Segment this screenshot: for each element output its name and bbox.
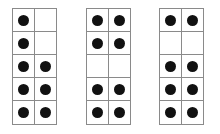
frame-cell [109, 55, 131, 78]
frame-cell [160, 101, 182, 124]
dot-icon [114, 84, 125, 95]
dot-icon [18, 107, 29, 118]
dot-icon [114, 38, 125, 49]
frame-cell [182, 78, 204, 101]
frame-cell [109, 101, 131, 124]
ten-frame-2 [86, 8, 131, 125]
frame-cell [182, 32, 204, 55]
dot-icon [18, 15, 29, 26]
frame-cell [109, 32, 131, 55]
dot-icon [40, 107, 51, 118]
frame-cell [109, 9, 131, 32]
frame-cell [35, 55, 57, 78]
frame-cell [160, 55, 182, 78]
frame-cell [13, 55, 35, 78]
dot-icon [18, 38, 29, 49]
dot-icon [92, 15, 103, 26]
frame-cell [35, 78, 57, 101]
dot-icon [18, 61, 29, 72]
frame-cell [87, 101, 109, 124]
dot-icon [165, 15, 176, 26]
frame-cell [87, 32, 109, 55]
frame-cell [160, 9, 182, 32]
dot-icon [40, 61, 51, 72]
ten-frame-1 [12, 8, 57, 125]
dot-icon [187, 107, 198, 118]
frame-cell [13, 78, 35, 101]
frame-cell [13, 32, 35, 55]
frame-cell [35, 101, 57, 124]
dot-icon [92, 84, 103, 95]
frame-cell [160, 78, 182, 101]
frame-cell [13, 101, 35, 124]
dot-icon [114, 107, 125, 118]
dot-icon [187, 84, 198, 95]
dot-icon [165, 107, 176, 118]
dot-icon [18, 84, 29, 95]
dot-icon [92, 107, 103, 118]
frame-cell [109, 78, 131, 101]
frame-cell [87, 55, 109, 78]
frame-cell [35, 9, 57, 32]
frame-cell [87, 9, 109, 32]
dot-icon [40, 84, 51, 95]
frame-cell [160, 32, 182, 55]
ten-frame-3 [159, 8, 204, 125]
frame-cell [87, 78, 109, 101]
dot-icon [187, 61, 198, 72]
dot-icon [165, 84, 176, 95]
dot-icon [114, 15, 125, 26]
frame-cell [182, 101, 204, 124]
frame-cell [13, 9, 35, 32]
frame-cell [182, 55, 204, 78]
frame-cell [35, 32, 57, 55]
dot-icon [92, 38, 103, 49]
dot-icon [165, 61, 176, 72]
frame-cell [182, 9, 204, 32]
dot-icon [187, 15, 198, 26]
